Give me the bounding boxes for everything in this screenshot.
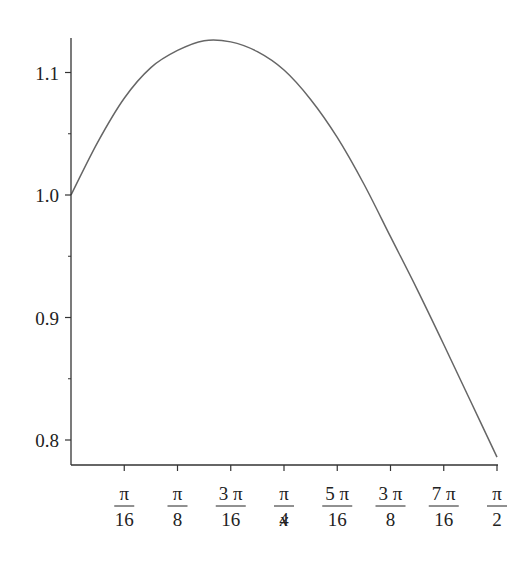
fraction-numerator: 7 π	[432, 483, 456, 504]
x-axis-title: x	[279, 509, 289, 530]
line-chart: 0.80.91.01.1 π16π83 π16π45 π163 π87 π16π…	[0, 0, 531, 562]
y-tick-label: 1.1	[35, 63, 59, 84]
y-axis: 0.80.91.01.1	[35, 38, 71, 465]
fraction-numerator: 3 π	[219, 483, 243, 504]
y-tick-label: 0.9	[35, 308, 59, 329]
x-tick-label: π8	[168, 483, 188, 530]
x-tick-label: π16	[114, 483, 134, 530]
y-tick-label: 0.8	[35, 430, 59, 451]
fraction-denominator: 8	[386, 509, 396, 530]
fraction-numerator: π	[279, 483, 289, 504]
x-tick-label: 7 π16	[429, 483, 459, 530]
x-axis: π16π83 π16π45 π163 π87 π16π2	[71, 465, 507, 530]
fraction-numerator: π	[173, 483, 183, 504]
x-tick-label: 3 π8	[376, 483, 406, 530]
fraction-denominator: 8	[173, 509, 183, 530]
fraction-numerator: 5 π	[325, 483, 349, 504]
plot-area	[71, 40, 497, 457]
fraction-denominator: 2	[492, 509, 502, 530]
fraction-numerator: 3 π	[379, 483, 403, 504]
x-tick-label: 3 π16	[216, 483, 246, 530]
fraction-denominator: 16	[221, 509, 240, 530]
y-tick-label: 1.0	[35, 185, 59, 206]
fraction-denominator: 16	[434, 509, 453, 530]
fraction-numerator: π	[119, 483, 129, 504]
fraction-denominator: 16	[115, 509, 134, 530]
x-tick-label: π2	[487, 483, 507, 530]
series-line	[71, 40, 497, 457]
fraction-numerator: π	[492, 483, 502, 504]
x-tick-label: 5 π16	[322, 483, 352, 530]
fraction-denominator: 16	[328, 509, 347, 530]
